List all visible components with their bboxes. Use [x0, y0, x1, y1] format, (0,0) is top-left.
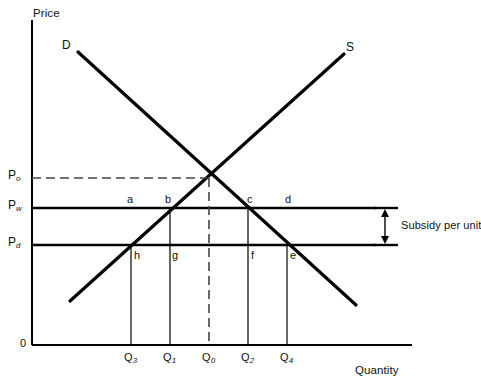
point-label-c: c	[247, 194, 253, 205]
subsidy-arrow-head-down	[381, 236, 389, 244]
quantity-label-q3: Q3	[124, 352, 137, 366]
quantity-label-q0: Q0	[202, 352, 215, 366]
subsidy-arrow-head-up	[381, 209, 389, 217]
supply-curve-label: S	[346, 42, 354, 53]
y-axis-title: Price	[33, 8, 60, 19]
point-label-g: g	[172, 250, 178, 261]
point-label-b: b	[165, 194, 171, 205]
point-label-a: a	[127, 194, 133, 205]
demand-curve-label: D	[62, 40, 71, 51]
price-label-pd: Pd	[8, 237, 21, 251]
price-label-pw: Pw	[8, 200, 22, 214]
price-label-po: Po	[8, 170, 21, 184]
point-label-d: d	[285, 194, 291, 205]
origin-label: 0	[20, 338, 26, 349]
x-axis-title: Quantity	[355, 365, 399, 376]
quantity-label-q4: Q4	[280, 352, 293, 366]
point-label-e: e	[290, 250, 296, 261]
quantity-label-q1: Q1	[163, 352, 176, 366]
point-label-h: h	[134, 250, 140, 261]
point-label-f: f	[251, 250, 254, 261]
subsidy-per-unit-label: Subsidy per unit	[401, 220, 481, 231]
quantity-label-q2: Q2	[241, 352, 254, 366]
